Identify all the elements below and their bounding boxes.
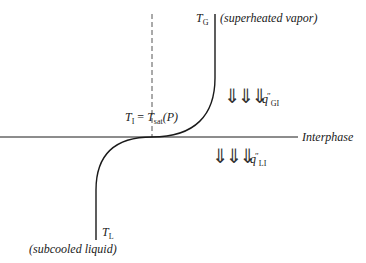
heat-flux-arrows-gas: ⇓⇓⇓ — [224, 86, 265, 106]
qli-sub: LI — [259, 159, 267, 168]
ti-main: T — [125, 110, 132, 124]
equals-sign: = — [134, 110, 147, 124]
heat-flux-arrows-liquid: ⇓⇓⇓ — [212, 146, 253, 166]
q-gi-label: q″GI — [262, 92, 279, 108]
tl-sub: L — [109, 232, 114, 241]
interface-temperature-label: TI = Tsat(P) — [125, 111, 178, 126]
tg-label: TG — [196, 12, 208, 27]
tg-main: T — [196, 11, 203, 25]
tl-label: TL — [102, 226, 114, 241]
qgi-sub: GI — [271, 99, 279, 108]
superheated-vapor-label: (superheated vapor) — [220, 12, 317, 24]
tg-sub: G — [203, 18, 209, 27]
tsat-main: T — [147, 110, 154, 124]
q-li-label: q″LI — [250, 152, 266, 168]
tsat-arg: (P) — [163, 110, 178, 124]
interphase-label: Interphase — [302, 131, 353, 143]
tl-main: T — [102, 225, 109, 239]
subcooled-liquid-label: (subcooled liquid) — [29, 243, 117, 255]
tsat-sub: sat — [154, 117, 163, 126]
